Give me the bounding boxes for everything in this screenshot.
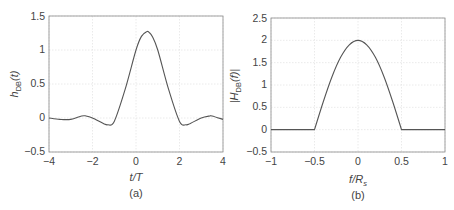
svg-text:|HDB(f)|: |HDB(f)| xyxy=(228,69,243,104)
y-ticks-a: −0.5 0 0.5 1 1.5 xyxy=(24,10,45,157)
ytick-a-2: 0.5 xyxy=(30,77,45,89)
y-ticks-b: −0.5 0 0.5 1 1.5 2 2.5 xyxy=(246,12,267,157)
xlabel-b-main: f/R xyxy=(349,173,363,185)
ylabel-a-arg: (t) xyxy=(8,70,20,81)
grid-a xyxy=(49,16,223,152)
ytick-a-4: 1.5 xyxy=(30,10,45,22)
x-ticks-b: −1 −0.5 0 0.5 1 xyxy=(265,155,448,167)
ylabel-b-sub: DB xyxy=(234,82,243,92)
ylabel-b: |HDB(f)| xyxy=(228,69,243,104)
xtick-b-4: 1 xyxy=(442,155,448,167)
ylabel-b-main: |H xyxy=(228,92,240,103)
xtick-a-0: −4 xyxy=(43,155,55,167)
xlabel-b: f/Rs xyxy=(349,173,367,188)
xtick-b-2: 0 xyxy=(355,155,361,167)
ylabel-a-sub: DB xyxy=(14,81,23,91)
panel-b: −0.5 0 0.5 1 1.5 2 2.5 −1 −0.5 0 0.5 1 f… xyxy=(228,12,448,201)
panel-a: −0.5 0 0.5 1 1.5 −4 −2 0 2 4 t/T (a) hDB… xyxy=(8,10,226,199)
xtick-b-3: 0.5 xyxy=(394,155,409,167)
xtick-a-3: 2 xyxy=(177,155,183,167)
xlabel-b-sub: s xyxy=(363,179,367,188)
figure: −0.5 0 0.5 1 1.5 −4 −2 0 2 4 t/T (a) hDB… xyxy=(0,0,454,210)
ytick-b-4: 1.5 xyxy=(252,56,267,68)
ytick-a-3: 1 xyxy=(39,43,45,55)
ytick-b-1: 0 xyxy=(261,123,267,135)
grid-b xyxy=(271,18,445,152)
xtick-a-1: −2 xyxy=(87,155,99,167)
ytick-a-1: 0 xyxy=(39,111,45,123)
ytick-b-5: 2 xyxy=(261,33,267,45)
curve-a xyxy=(49,31,223,125)
caption-b: (b) xyxy=(351,189,364,201)
xtick-a-2: 0 xyxy=(133,155,139,167)
ylabel-b-arg: (f)| xyxy=(228,69,240,82)
xtick-a-4: 4 xyxy=(220,155,226,167)
ytick-b-2: 0.5 xyxy=(252,100,267,112)
xtick-b-1: −0.5 xyxy=(304,155,325,167)
xlabel-a: t/T xyxy=(130,171,144,183)
ytick-b-6: 2.5 xyxy=(252,12,267,24)
x-ticks-a: −4 −2 0 2 4 xyxy=(43,155,226,167)
svg-text:hDB(t): hDB(t) xyxy=(8,70,23,97)
xtick-b-0: −1 xyxy=(265,155,277,167)
ytick-b-3: 1 xyxy=(261,78,267,90)
ylabel-a: hDB(t) xyxy=(8,70,23,97)
caption-a: (a) xyxy=(129,187,142,199)
